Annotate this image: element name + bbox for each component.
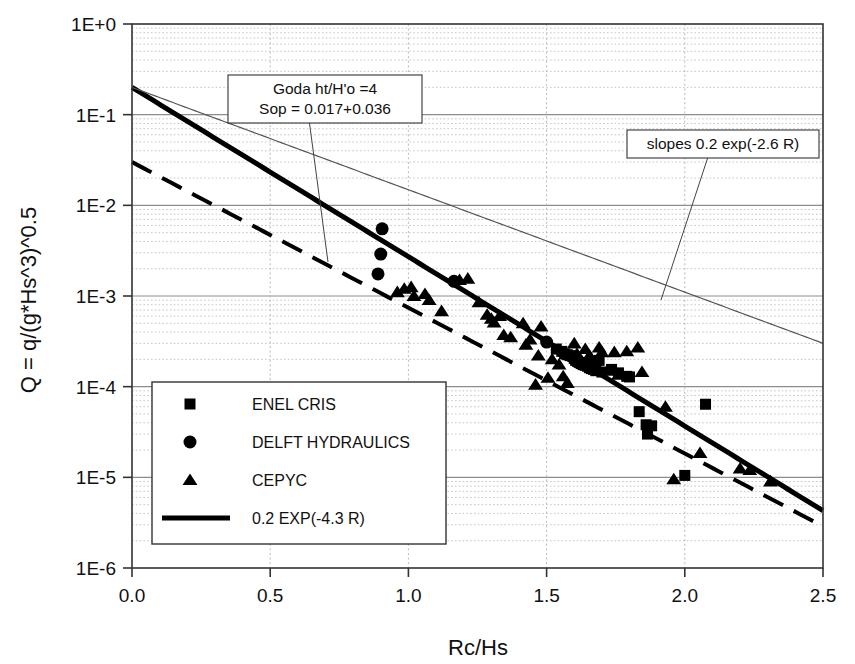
y-tick-label: 1E+0 [71,14,116,35]
annotation-text: Goda ht/H'o =4 [273,80,378,97]
data-point [646,420,657,431]
x-tick-label: 1.0 [395,585,421,606]
annotation-text: Sop = 0.017+0.036 [259,100,391,117]
y-tick-label: 1E-3 [76,286,116,307]
chart-background [0,0,855,664]
data-point [376,222,389,235]
legend-label: 0.2 EXP(-4.3 R) [252,510,365,527]
y-tick-label: 1E-4 [76,377,117,398]
legend: ENEL CRISDELFT HYDRAULICSCEPYC0.2 EXP(-4… [152,382,446,544]
x-tick-label: 0.0 [119,585,145,606]
x-tick-label: 1.5 [533,585,559,606]
data-point [624,371,635,382]
legend-label: DELFT HYDRAULICS [252,434,410,451]
chart-root: 1E+01E-11E-21E-31E-41E-51E-6 0.00.51.01.… [0,0,855,664]
x-tick-label: 0.5 [257,585,283,606]
legend-label: ENEL CRIS [252,396,336,413]
legend-marker-circle [184,436,197,449]
legend-marker-square [185,399,196,410]
x-tick-label: 2.0 [672,585,698,606]
annotation-text: slopes 0.2 exp(-2.6 R) [647,135,800,152]
data-point [371,267,384,280]
y-tick-label: 1E-6 [76,558,116,579]
data-point [634,406,645,417]
overtopping-scatter-chart: 1E+01E-11E-21E-31E-41E-51E-6 0.00.51.01.… [0,0,855,664]
x-tick-label: 2.5 [810,585,836,606]
data-point [540,336,553,349]
data-point [679,470,690,481]
data-point [374,248,387,261]
y-tick-label: 1E-2 [76,195,116,216]
data-point [700,399,711,410]
x-axis-title: Rc/Hs [448,635,508,660]
legend-label: CEPYC [252,472,307,489]
y-tick-label: 1E-1 [76,105,116,126]
y-tick-label: 1E-5 [76,467,116,488]
y-axis-title: Q = q/(g*Hs^3)^0.5 [16,207,41,393]
